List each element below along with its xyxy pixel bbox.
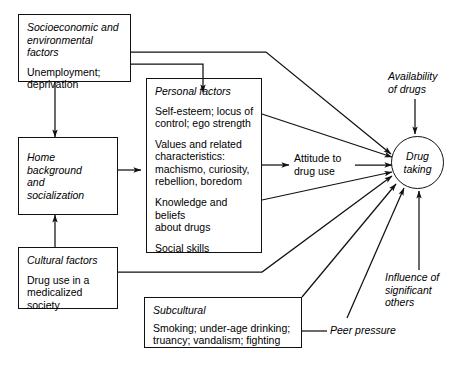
- box-personal-factors[interactable]: Personal factors Self-esteem; locus of c…: [146, 78, 262, 253]
- box-personal-factors-item-self-esteem: Self-esteem; locus of control; ego stren…: [155, 105, 254, 130]
- box-cultural-factors-title: Cultural factors: [27, 254, 110, 267]
- label-peer-pressure: Peer pressure: [330, 324, 396, 337]
- box-subcultural[interactable]: Subcultural Smoking; under-age drinking;…: [144, 297, 302, 348]
- node-drug-taking-label: Drug taking: [403, 150, 431, 175]
- label-influence-of-significant-others: Influence of significant others: [385, 271, 439, 309]
- box-socioeconomic-title: Socioeconomic and environmental factors: [27, 21, 123, 59]
- box-personal-factors-item-knowledge: Knowledge and beliefs about drugs: [155, 196, 254, 234]
- box-home-background[interactable]: Home background and socialization: [18, 137, 118, 215]
- label-availability-of-drugs: Availability of drugs: [388, 70, 437, 95]
- box-socioeconomic[interactable]: Socioeconomic and environmental factors …: [18, 14, 131, 82]
- box-personal-factors-title: Personal factors: [155, 85, 254, 98]
- box-home-background-title: Home background and socialization: [27, 151, 110, 201]
- edge-personal-drugtaking-upper: [262, 114, 392, 157]
- node-drug-taking[interactable]: Drug taking: [391, 136, 444, 189]
- box-socioeconomic-body: Unemployment; deprivation: [27, 66, 123, 91]
- edge-subcultural-drugtaking: [302, 184, 396, 297]
- box-personal-factors-item-values: Values and related characteristics: mach…: [155, 138, 254, 188]
- label-attitude-to-drug-use: Attitude to drug use: [294, 152, 341, 177]
- box-subcultural-title: Subcultural: [153, 304, 294, 317]
- box-cultural-factors[interactable]: Cultural factors Drug use in a medicaliz…: [18, 247, 118, 309]
- box-cultural-factors-body: Drug use in a medicalized society: [27, 274, 110, 312]
- diagram-canvas: Socioeconomic and environmental factors …: [0, 0, 467, 377]
- box-personal-factors-item-social-skills: Social skills: [155, 242, 254, 255]
- box-subcultural-body: Smoking; under-age drinking; truancy; va…: [153, 322, 294, 347]
